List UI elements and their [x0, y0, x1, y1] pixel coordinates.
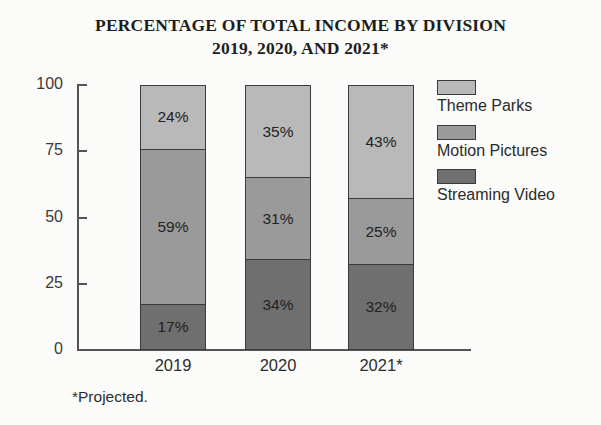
- y-axis-tick: [77, 84, 87, 86]
- bar-segment[interactable]: 43%: [349, 86, 413, 198]
- bar-segment[interactable]: 31%: [246, 177, 310, 259]
- chart-title-block: PERCENTAGE OF TOTAL INCOME BY DIVISION 2…: [0, 14, 601, 60]
- bar-segment[interactable]: 34%: [246, 259, 310, 349]
- legend-label: Theme Parks: [437, 97, 597, 115]
- legend-item[interactable]: Theme Parks: [437, 80, 597, 115]
- y-axis-tick: [77, 349, 87, 351]
- y-axis-tick-label: 75: [0, 141, 63, 159]
- stacked-bar[interactable]: 43%25%32%: [348, 85, 414, 350]
- chart-title: PERCENTAGE OF TOTAL INCOME BY DIVISION: [95, 15, 506, 35]
- bar-segment-label: 24%: [157, 108, 188, 126]
- chart-figure: PERCENTAGE OF TOTAL INCOME BY DIVISION 2…: [0, 0, 601, 425]
- bar-segment[interactable]: 24%: [141, 86, 205, 149]
- bar-segment-label: 17%: [157, 318, 188, 336]
- stacked-bar[interactable]: 24%59%17%: [140, 85, 206, 350]
- y-axis-tick-label: 100: [0, 75, 63, 93]
- y-axis-tick-label: 25: [0, 274, 63, 292]
- x-axis-category-label: 2020: [233, 356, 323, 375]
- bar-segment[interactable]: 35%: [246, 86, 310, 177]
- bar-segment-label: 32%: [365, 298, 396, 316]
- x-axis-category-label: 2019: [128, 356, 218, 375]
- legend-swatch: [437, 125, 476, 140]
- bar-segment-label: 59%: [157, 218, 188, 236]
- bar-segment-label: 25%: [365, 223, 396, 241]
- legend-label: Streaming Video: [437, 186, 597, 204]
- y-axis-tick: [77, 283, 87, 285]
- y-axis-tick: [77, 150, 87, 152]
- bar-segment-label: 43%: [365, 133, 396, 151]
- legend-swatch: [437, 80, 476, 95]
- y-axis-tick-label: 0: [0, 340, 63, 358]
- footnote: *Projected.: [72, 388, 148, 406]
- bar-segment-label: 35%: [262, 123, 293, 141]
- bar-segment-label: 31%: [262, 210, 293, 228]
- legend-label: Motion Pictures: [437, 142, 597, 160]
- bar-segment[interactable]: 17%: [141, 304, 205, 349]
- y-axis-tick: [77, 217, 87, 219]
- bar-segment[interactable]: 25%: [349, 198, 413, 264]
- legend-item[interactable]: Motion Pictures: [437, 125, 597, 160]
- x-axis-category-label: 2021*: [336, 356, 426, 375]
- legend-swatch: [437, 169, 476, 184]
- bar-segment-label: 34%: [262, 296, 293, 314]
- bar-segment[interactable]: 32%: [349, 264, 413, 349]
- y-axis-tick-label: 50: [0, 208, 63, 226]
- legend-item[interactable]: Streaming Video: [437, 169, 597, 204]
- stacked-bar[interactable]: 35%31%34%: [245, 85, 311, 350]
- legend: Theme ParksMotion PicturesStreaming Vide…: [437, 80, 597, 214]
- chart-subtitle: 2019, 2020, AND 2021*: [0, 37, 601, 60]
- bar-segment[interactable]: 59%: [141, 149, 205, 304]
